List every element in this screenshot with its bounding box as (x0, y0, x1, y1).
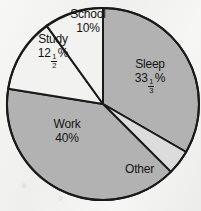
pie-label-study-fraction: 12 (51, 53, 57, 69)
pie-label-sleep-suffix: % (155, 71, 165, 85)
pie-label-school-name: School (57, 8, 119, 20)
pie-label-study-name: Study (22, 33, 84, 45)
pie-label-study-value: 1212% (22, 47, 84, 69)
pie-label-work: Work 40% (36, 118, 98, 144)
pie-label-sleep: Sleep 3313% (119, 58, 181, 94)
pie-label-sleep-whole: 33 (135, 71, 148, 85)
pie-chart-figure: Sleep 3313% Work 40% Study 1212% School … (0, 0, 201, 211)
pie-label-sleep-name: Sleep (119, 58, 181, 70)
pie-label-other: Other (125, 163, 171, 175)
pie-label-study-whole: 12 (38, 46, 51, 60)
pie-label-sleep-denominator: 3 (148, 87, 154, 95)
pie-label-study: Study 1212% (22, 33, 84, 69)
pie-label-study-denominator: 2 (51, 62, 57, 70)
pie-label-study-suffix: % (58, 46, 68, 60)
pie-label-school-value: 10% (57, 22, 119, 34)
pie-label-sleep-fraction: 13 (148, 78, 154, 94)
pie-label-other-name: Other (125, 163, 171, 175)
pie-label-sleep-value: 3313% (119, 72, 181, 94)
pie-label-work-value: 40% (36, 132, 98, 144)
pie-label-work-name: Work (36, 118, 98, 130)
pie-label-school: School 10% (57, 8, 119, 34)
